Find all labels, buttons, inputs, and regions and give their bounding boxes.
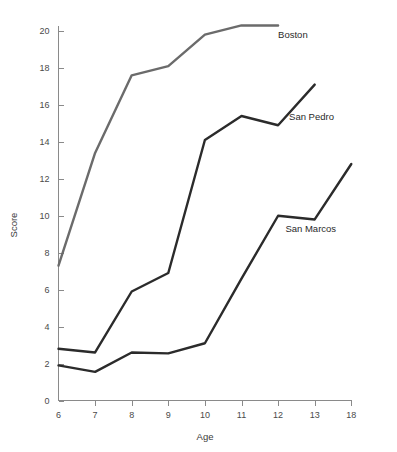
chart-canvas: 02468101214161820 67891011121318 BostonS… bbox=[0, 0, 397, 452]
y-tick-label: 12 bbox=[39, 174, 49, 184]
x-tick-label: 13 bbox=[310, 410, 320, 420]
x-tick-label: 12 bbox=[273, 410, 283, 420]
y-tick-label: 4 bbox=[44, 322, 49, 332]
series-labels: BostonSan PedroSan Marcos bbox=[278, 29, 336, 234]
x-tick-label: 8 bbox=[129, 410, 134, 420]
x-tick-label: 9 bbox=[166, 410, 171, 420]
y-tick-label: 2 bbox=[44, 359, 49, 369]
series-label-san-pedro: San Pedro bbox=[289, 111, 334, 122]
y-tick-label: 6 bbox=[44, 285, 49, 295]
series-line-boston bbox=[59, 25, 279, 265]
x-tick-label: 18 bbox=[346, 410, 356, 420]
y-tick-label: 14 bbox=[39, 137, 49, 147]
x-tick-label: 10 bbox=[200, 410, 210, 420]
x-axis-title: Age bbox=[197, 431, 214, 442]
series-label-san-marcos: San Marcos bbox=[285, 223, 336, 234]
x-tick-label: 7 bbox=[93, 410, 98, 420]
y-tick-label: 10 bbox=[39, 211, 49, 221]
x-tick-label: 11 bbox=[237, 410, 246, 420]
y-tick-label: 16 bbox=[39, 100, 49, 110]
y-tick-label: 8 bbox=[44, 248, 49, 258]
series-label-boston: Boston bbox=[278, 29, 308, 40]
y-axis-title: Score bbox=[8, 213, 19, 238]
x-axis-ticks: 67891011121318 bbox=[56, 401, 356, 420]
series-lines bbox=[59, 25, 352, 371]
x-tick-label: 6 bbox=[56, 410, 61, 420]
line-chart: 02468101214161820 67891011121318 BostonS… bbox=[0, 0, 397, 452]
y-tick-label: 18 bbox=[39, 63, 49, 73]
y-tick-label: 20 bbox=[39, 26, 49, 36]
y-tick-label: 0 bbox=[44, 396, 49, 406]
